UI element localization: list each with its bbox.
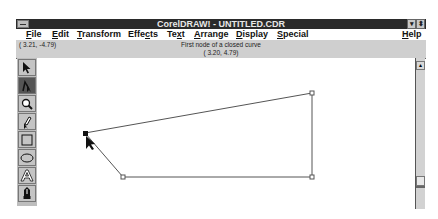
window-title: CorelDRAW! - UNTITLED.CDR: [157, 19, 285, 29]
status-message-line2: ( 3.20, 4.79): [136, 49, 306, 57]
menu-special[interactable]: Special: [277, 29, 309, 40]
scrollbar-divider: [416, 186, 425, 188]
menu-effects[interactable]: Effects: [128, 29, 158, 40]
pick-tool[interactable]: [18, 59, 36, 76]
ellipse-icon: [20, 153, 34, 163]
restore-button[interactable]: ⬍: [416, 19, 425, 29]
menu-display[interactable]: Display: [236, 29, 268, 40]
node-handle[interactable]: [121, 175, 125, 179]
pencil-icon: [21, 115, 33, 129]
menu-text[interactable]: Text: [167, 29, 185, 40]
coreldraw-window: CorelDRAW! - UNTITLED.CDR ▾ ⬍ File Edit …: [16, 19, 426, 209]
rectangle-icon: [21, 134, 33, 146]
pen-nib-icon: [22, 187, 32, 200]
minimize-icon: ▾: [410, 20, 414, 27]
menu-transform[interactable]: Transform: [77, 29, 121, 40]
mouse-cursor-icon: [86, 136, 95, 150]
outline-tool[interactable]: [18, 185, 36, 202]
menu-arrange[interactable]: Arrange: [194, 29, 229, 40]
scroll-up-icon: ▴: [419, 62, 422, 68]
node-edit-icon: [21, 80, 33, 92]
scroll-up-button[interactable]: ▴: [416, 61, 425, 70]
ellipse-tool[interactable]: [18, 149, 36, 166]
rectangle-tool[interactable]: [18, 131, 36, 148]
title-bar: CorelDRAW! - UNTITLED.CDR ▾ ⬍: [16, 19, 426, 29]
status-message-line1: First node of a closed curve: [136, 41, 306, 49]
zoom-tool[interactable]: [18, 95, 36, 112]
closed-curve-shape[interactable]: [37, 58, 415, 209]
scroll-thumb[interactable]: [416, 176, 425, 186]
selected-node-handle[interactable]: [83, 131, 88, 136]
node-handle[interactable]: [310, 91, 314, 95]
minimize-button[interactable]: ▾: [407, 19, 416, 29]
menu-help[interactable]: Help: [402, 29, 422, 40]
drawing-canvas[interactable]: [37, 58, 415, 209]
toolbox: [17, 58, 37, 206]
menu-file[interactable]: File: [26, 29, 42, 40]
arrow-icon: [22, 62, 32, 74]
status-message: First node of a closed curve ( 3.20, 4.7…: [136, 41, 306, 56]
system-menu-button[interactable]: [17, 20, 29, 28]
pencil-tool[interactable]: [18, 113, 36, 130]
cursor-coordinates: ( 3.21, -4.79): [19, 41, 56, 48]
letter-a-icon: [20, 169, 34, 182]
text-tool[interactable]: [18, 167, 36, 184]
magnifier-icon: [21, 98, 33, 110]
shape-tool[interactable]: [18, 77, 36, 94]
status-bar: ( 3.21, -4.79) First node of a closed cu…: [16, 40, 426, 59]
restore-icon: ⬍: [418, 20, 424, 27]
menu-edit[interactable]: Edit: [52, 29, 69, 40]
node-handle[interactable]: [310, 175, 314, 179]
vertical-scrollbar[interactable]: ▴: [415, 58, 425, 209]
